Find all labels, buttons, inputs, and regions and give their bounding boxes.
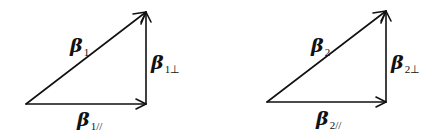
label-subscript: 1⊥ (165, 63, 181, 75)
label-beta2-perp: β2⊥ (391, 51, 420, 73)
label-beta2: β2 (311, 34, 330, 56)
label-beta1-perp: β1⊥ (151, 51, 180, 73)
vector-diagram: β1 β1⊥ β1// β2 β2⊥ β2// (0, 0, 435, 140)
label-beta2-parallel: β2// (316, 107, 341, 129)
label-beta1: β1 (70, 34, 89, 56)
label-subscript: 2 (325, 46, 331, 58)
label-symbol: β (391, 51, 404, 73)
label-symbol: β (70, 34, 83, 56)
label-subscript: 1// (91, 120, 103, 132)
label-subscript: 1 (84, 46, 90, 58)
label-beta1-parallel: β1// (77, 108, 102, 130)
vector-beta1-hypotenuse (26, 12, 146, 104)
label-subscript: 2// (330, 119, 342, 131)
label-symbol: β (151, 51, 164, 73)
vector-arrows (0, 0, 435, 140)
label-subscript: 2⊥ (405, 63, 421, 75)
label-symbol: β (311, 34, 324, 56)
label-symbol: β (316, 107, 329, 129)
label-symbol: β (77, 108, 90, 130)
